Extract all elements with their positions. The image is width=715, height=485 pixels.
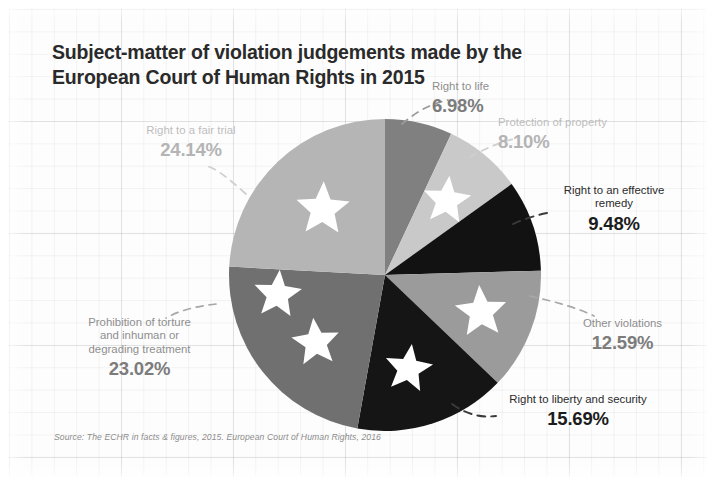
pie-slices (229, 119, 541, 431)
slice-label-value: 9.48% (528, 213, 700, 235)
slice-label-right-to-an-effective-remedy: Right to an effective remedy 9.48% (528, 184, 700, 235)
slice-label-right-to-life: Right to life 6.98% (432, 80, 562, 117)
slice-label-name: Right to a fair trial (96, 124, 286, 137)
slice-label-value: 23.02% (42, 358, 237, 380)
slice-label-prohibition-of-torture: Prohibition of torture and inhuman or de… (42, 316, 237, 380)
infographic-page: Subject-matter of violation judgements m… (0, 0, 715, 485)
pie-chart-svg (229, 119, 541, 431)
slice-label-name: Protection of property (498, 116, 648, 129)
slice-label-value: 8.10% (498, 131, 648, 153)
slice-label-right-to-liberty-and-security: Right to liberty and security 15.69% (478, 393, 678, 430)
slice-label-name: Prohibition of torture and inhuman or de… (42, 316, 237, 356)
slice-label-other-violations: Other violations 12.59% (545, 317, 700, 354)
pie-chart (229, 119, 541, 431)
slice-label-right-to-a-fair-trial: Right to a fair trial 24.14% (96, 124, 286, 161)
slice-label-value: 12.59% (545, 332, 700, 354)
slice-label-name: Right to life (432, 80, 562, 93)
slice-label-value: 24.14% (96, 139, 286, 161)
slice-label-protection-of-property: Protection of property 8.10% (498, 116, 648, 153)
page-title-line1: Subject-matter of violation judgements m… (52, 41, 522, 63)
slice-label-name: Right to an effective remedy (528, 184, 700, 211)
slice-label-name: Right to liberty and security (478, 393, 678, 406)
source-note: Source: The ECHR in facts & figures, 201… (54, 432, 381, 442)
slice-label-value: 6.98% (432, 95, 562, 117)
slice-label-value: 15.69% (478, 408, 678, 430)
slice-label-name: Other violations (545, 317, 700, 330)
